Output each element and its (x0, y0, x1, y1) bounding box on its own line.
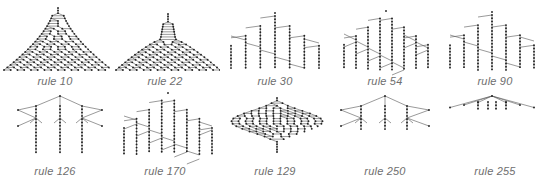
panel-rule-30: rule 30 (220, 0, 330, 90)
causal-network-diagram (220, 90, 330, 166)
panel-rule-54: rule 54 (330, 0, 440, 90)
causal-network-diagram (330, 90, 440, 166)
panel-label: rule 126 (0, 165, 110, 177)
panel-label: rule 90 (440, 75, 550, 87)
panel-label: rule 30 (220, 75, 330, 87)
causal-network-diagram (220, 0, 330, 76)
panel-label: rule 255 (440, 165, 550, 177)
causal-network-diagram (0, 0, 110, 76)
causal-network-grid: rule 10 rule 22 rule 30 rule 54 rule 90 … (0, 0, 553, 180)
panel-rule-90: rule 90 (440, 0, 550, 90)
panel-rule-170: rule 170 (110, 90, 220, 180)
panel-rule-22: rule 22 (110, 0, 220, 90)
panel-label: rule 10 (0, 75, 110, 87)
causal-network-diagram (110, 90, 220, 166)
panel-rule-126: rule 126 (0, 90, 110, 180)
panel-rule-255: rule 255 (440, 90, 550, 180)
causal-network-diagram (440, 90, 550, 166)
panel-label: rule 22 (110, 75, 220, 87)
causal-network-diagram (330, 0, 440, 76)
panel-rule-250: rule 250 (330, 90, 440, 180)
panel-label: rule 129 (220, 165, 330, 177)
panel-rule-10: rule 10 (0, 0, 110, 90)
causal-network-diagram (0, 90, 110, 166)
causal-network-diagram (440, 0, 550, 76)
panel-label: rule 250 (330, 165, 440, 177)
panel-label: rule 170 (110, 165, 220, 177)
causal-network-diagram (110, 0, 220, 76)
panel-label: rule 54 (330, 75, 440, 87)
panel-rule-129: rule 129 (220, 90, 330, 180)
